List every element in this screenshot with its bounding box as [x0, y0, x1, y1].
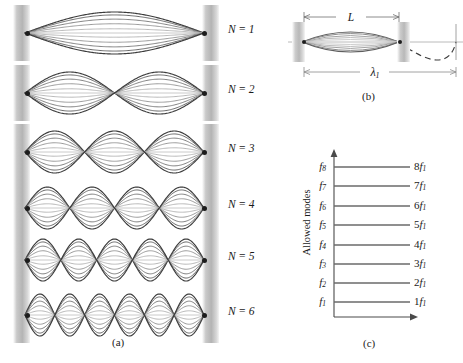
wave-row-mode-5: N = 5 — [0, 232, 288, 288]
mode-label-3: N = 3 — [228, 142, 255, 154]
mode-number: 6 — [249, 305, 255, 317]
chart-right-label-5f1: 5f1 — [414, 218, 448, 231]
mode-number: 5 — [249, 250, 255, 262]
mode-label-1: N = 1 — [228, 23, 255, 35]
wave-row-mode-3: N = 3 — [0, 124, 288, 180]
node-dot-right — [202, 258, 207, 263]
wave-curve — [25, 29, 204, 33]
node-dot-left — [25, 91, 30, 96]
chart-left-label-f6: f6 — [304, 199, 326, 212]
node-dot-right — [202, 31, 207, 36]
mode-number: 2 — [249, 83, 255, 95]
panel-c-caption: (c) — [363, 337, 375, 349]
standing-wave-figure: N = 1 N = 2 N — [0, 0, 463, 363]
node-dot-right — [202, 91, 207, 96]
chart-left-label-f3: f3 — [304, 257, 326, 270]
node-dot-right — [202, 150, 207, 155]
mode-label-4: N = 4 — [228, 198, 255, 210]
chart-right-label-4f1: 4f1 — [414, 238, 448, 251]
mode-symbol: N — [228, 250, 236, 262]
panel-b-caption: (b) — [362, 90, 375, 102]
chart-x-axis-arrow — [410, 314, 418, 321]
node-dot-left — [25, 206, 30, 211]
chart-left-label-f5: f5 — [304, 218, 326, 231]
panel-b-node-left — [302, 40, 306, 44]
mode-symbol: N — [228, 198, 236, 210]
mode-symbol: N — [228, 23, 236, 35]
mode-number: 3 — [249, 142, 255, 154]
mode-symbol: N — [228, 305, 236, 317]
chart-left-label-f7: f7 — [304, 179, 326, 192]
panel-a-caption: (a) — [112, 336, 124, 348]
chart-right-label-6f1: 6f1 — [414, 199, 448, 212]
mode-equals: = — [239, 23, 246, 35]
mode-label-2: N = 2 — [228, 83, 255, 95]
mode-label-6: N = 6 — [228, 305, 255, 317]
wavelength-label-lambda: λ1 — [369, 65, 379, 80]
chart-right-label-3f1: 3f1 — [414, 257, 448, 270]
mode-number: 1 — [249, 23, 255, 35]
chart-left-label-f1: f1 — [304, 295, 326, 308]
mode-symbol: N — [228, 142, 236, 154]
panel-a-standing-wave-modes: N = 1 N = 2 N — [0, 0, 288, 363]
chart-y-axis-arrow — [331, 149, 338, 157]
mode-symbol: N — [228, 83, 236, 95]
chart-level-lines — [334, 167, 410, 302]
wave-curve — [25, 33, 204, 37]
chart-left-label-f8: f8 — [304, 160, 326, 173]
chart-right-label-1f1: 1f1 — [414, 295, 448, 308]
node-dot-right — [202, 313, 207, 318]
chart-left-label-f2: f2 — [304, 276, 326, 289]
wave-row-mode-4: N = 4 — [0, 180, 288, 236]
mode-label-5: N = 5 — [228, 250, 255, 262]
node-dot-left — [25, 31, 30, 36]
mode-equals: = — [239, 83, 246, 95]
panel-b-graphic: L — [288, 0, 463, 90]
chart-right-label-7f1: 7f1 — [414, 179, 448, 192]
chart-left-label-f4: f4 — [304, 238, 326, 251]
mode-equals: = — [239, 198, 246, 210]
node-dot-right — [202, 206, 207, 211]
wave-row-mode-2: N = 2 — [0, 65, 288, 121]
chart-right-label-2f1: 2f1 — [414, 276, 448, 289]
wave-row-mode-6: N = 6 — [0, 287, 288, 343]
wave-row-mode-1: N = 1 — [0, 5, 288, 61]
panel-c-allowed-modes-chart: Allowed modes f8 f7 f6 f5 f — [288, 145, 463, 363]
node-dot-left — [25, 313, 30, 318]
chart-right-label-8f1: 8f1 — [414, 160, 448, 173]
length-label-L: L — [347, 11, 354, 23]
mode-equals: = — [239, 142, 246, 154]
panel-b-fundamental-wavelength: L — [288, 0, 463, 112]
dimension-lambda — [304, 67, 456, 77]
mode-equals: = — [239, 305, 246, 317]
mode-number: 4 — [249, 198, 255, 210]
mode-equals: = — [239, 250, 246, 262]
node-dot-left — [25, 258, 30, 263]
panel-b-node-right — [398, 40, 402, 44]
node-dot-left — [25, 150, 30, 155]
